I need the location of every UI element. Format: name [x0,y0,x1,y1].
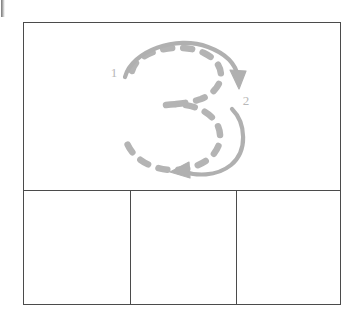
stroke-arrow-2-head [170,162,190,178]
stroke-arrow-2 [170,109,243,178]
worksheet-page: 1 2 [0,0,354,319]
practice-cell-3[interactable] [237,191,340,304]
stroke-guide-diagram: 1 2 [24,23,340,190]
practice-cell-2[interactable] [131,191,237,304]
stroke-number-1: 1 [111,65,118,80]
numeral-lower-bowl [125,104,220,170]
page-edge-artifact [1,0,5,17]
dashed-numeral-outline [125,48,221,170]
stroke-arrow-1-head [230,70,246,89]
demo-cell: 1 2 [24,23,340,191]
practice-frame: 1 2 [23,22,341,305]
numeral-upper-bowl [132,48,221,105]
stroke-number-2: 2 [243,93,250,108]
practice-row [24,191,340,304]
practice-cell-1[interactable] [24,191,131,304]
